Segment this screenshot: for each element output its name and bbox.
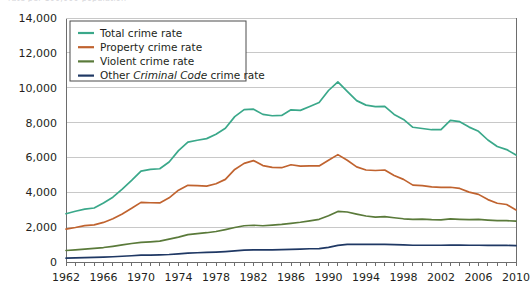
y-axis-tick-label: 6,000 (26, 151, 58, 164)
chart-canvas: 14,00012,00010,0008,0006,0004,0002,0000 … (0, 0, 531, 289)
legend-label-4: Other Criminal Code crime rate (100, 69, 265, 81)
y-axis-tick-label: 4,000 (26, 186, 58, 199)
data-series-group (66, 82, 516, 258)
y-axis-tick-label: 14,000 (19, 12, 58, 25)
x-axis-tick-label: 1978 (202, 271, 230, 284)
y-axis-tick-label: 12,000 (19, 47, 58, 60)
x-axis-tick-label: 2002 (427, 271, 455, 284)
y-axis-tick-label: 2,000 (26, 221, 58, 234)
x-axis-tick-label: 1970 (127, 271, 155, 284)
legend-label-1: Total crime rate (99, 27, 182, 39)
x-axis-tick-label: 1982 (240, 271, 268, 284)
x-axis-tick-label: 1966 (90, 271, 118, 284)
x-axis-tick-label: 1994 (352, 271, 380, 284)
x-axis-tick-label: 1990 (315, 271, 343, 284)
chart-legend: Total crime rateProperty crime rateViole… (70, 21, 265, 81)
x-axis-tick-label: 2010 (502, 271, 530, 284)
series-line-4 (66, 244, 516, 258)
x-axis-tick-label: 1986 (277, 271, 305, 284)
series-line-1 (66, 82, 516, 214)
x-axis-tick-marks (66, 262, 516, 266)
y-axis-tick-labels: 14,00012,00010,0008,0006,0004,0002,0000 (19, 12, 58, 269)
y-axis-tick-label: 8,000 (26, 117, 58, 130)
x-axis-tick-label: 2006 (465, 271, 493, 284)
legend-label-3: Violent crime rate (100, 55, 194, 67)
x-axis-tick-label: 1974 (165, 271, 193, 284)
clipped-figure-subtitle: rate per 100,000 population (8, 0, 126, 2)
x-axis-tick-label: 1998 (390, 271, 418, 284)
x-axis-tick-labels: 1962196619701974197819821986199019941998… (52, 271, 530, 284)
y-axis-tick-label: 0 (50, 256, 57, 269)
x-axis-tick-label: 1962 (52, 271, 80, 284)
crime-rate-line-chart: rate per 100,000 population 14,00012,000… (0, 0, 531, 289)
y-axis-tick-label: 10,000 (19, 82, 58, 95)
legend-label-2: Property crime rate (100, 41, 202, 53)
